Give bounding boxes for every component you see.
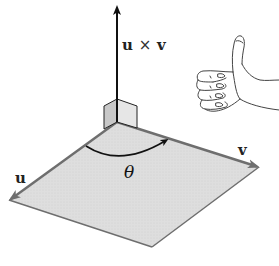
cross-label-u: u — [122, 36, 133, 54]
vector-v-label: v — [237, 141, 248, 159]
plane — [9, 122, 259, 247]
thumbs-up-right-hand-icon — [197, 36, 279, 111]
cross-label-v: v — [156, 36, 167, 54]
angle-theta-label: θ — [124, 162, 134, 182]
plane-surface — [9, 122, 259, 247]
cross-product-diagram: u × v u v θ — [0, 0, 279, 266]
cross-label-times: × — [139, 36, 152, 54]
vector-u-label: u — [15, 169, 26, 187]
cross-product-label: u × v — [122, 36, 167, 54]
